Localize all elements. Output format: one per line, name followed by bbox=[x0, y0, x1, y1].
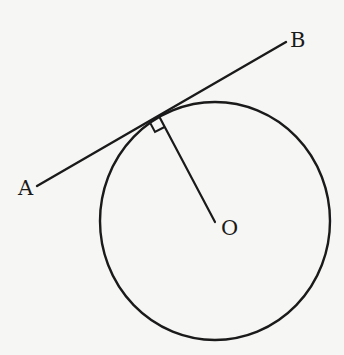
tangent-diagram bbox=[0, 0, 344, 355]
radius-line-o bbox=[160, 118, 215, 222]
tangent-line-ab bbox=[37, 42, 286, 186]
label-b: B bbox=[290, 30, 305, 51]
label-o: O bbox=[221, 218, 238, 239]
label-a: A bbox=[18, 178, 33, 199]
